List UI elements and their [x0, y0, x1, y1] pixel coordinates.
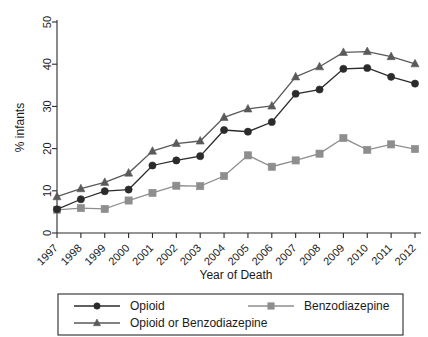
square-marker — [316, 150, 323, 157]
circle-marker — [53, 206, 60, 213]
x-axis-title: Year of Death — [200, 268, 273, 282]
circle-marker — [101, 188, 108, 195]
line-chart: 01020304050 1997199819992000200120022003… — [0, 0, 428, 337]
circle-marker — [364, 64, 371, 71]
circle-marker — [268, 118, 275, 125]
square-marker — [244, 152, 251, 159]
square-marker — [173, 182, 180, 189]
circle-marker — [149, 162, 156, 169]
circle-marker — [388, 73, 395, 80]
y-axis-title: % infants — [13, 103, 27, 152]
legend-label: Opioid or Benzodiazepine — [130, 316, 268, 330]
square-marker — [77, 205, 84, 212]
chart-figure: 01020304050 1997199819992000200120022003… — [0, 0, 428, 337]
circle-marker — [220, 126, 227, 133]
circle-marker — [94, 303, 100, 309]
chart-background — [0, 0, 428, 337]
legend-label: Benzodiazepine — [304, 299, 390, 313]
circle-marker — [411, 80, 418, 87]
square-marker — [364, 146, 371, 153]
square-marker — [220, 172, 227, 179]
circle-marker — [316, 86, 323, 93]
circle-marker — [244, 128, 251, 135]
y-tick-label: 20 — [41, 142, 53, 154]
circle-marker — [340, 65, 347, 72]
square-marker — [340, 134, 347, 141]
circle-marker — [292, 90, 299, 97]
circle-marker — [197, 153, 204, 160]
square-marker — [388, 141, 395, 148]
square-marker — [268, 163, 275, 170]
y-tick-label: 40 — [41, 58, 53, 70]
y-tick-label: 50 — [41, 16, 53, 28]
circle-marker — [125, 186, 132, 193]
y-tick-label: 10 — [41, 185, 53, 197]
square-marker — [101, 205, 108, 212]
y-tick-label: 0 — [41, 230, 53, 236]
square-marker — [149, 189, 156, 196]
y-tick-label: 30 — [41, 100, 53, 112]
circle-marker — [77, 196, 84, 203]
square-marker — [125, 197, 132, 204]
square-marker — [268, 303, 274, 309]
legend-label: Opioid — [130, 299, 165, 313]
square-marker — [197, 183, 204, 190]
circle-marker — [173, 157, 180, 164]
square-marker — [292, 157, 299, 164]
square-marker — [411, 145, 418, 152]
